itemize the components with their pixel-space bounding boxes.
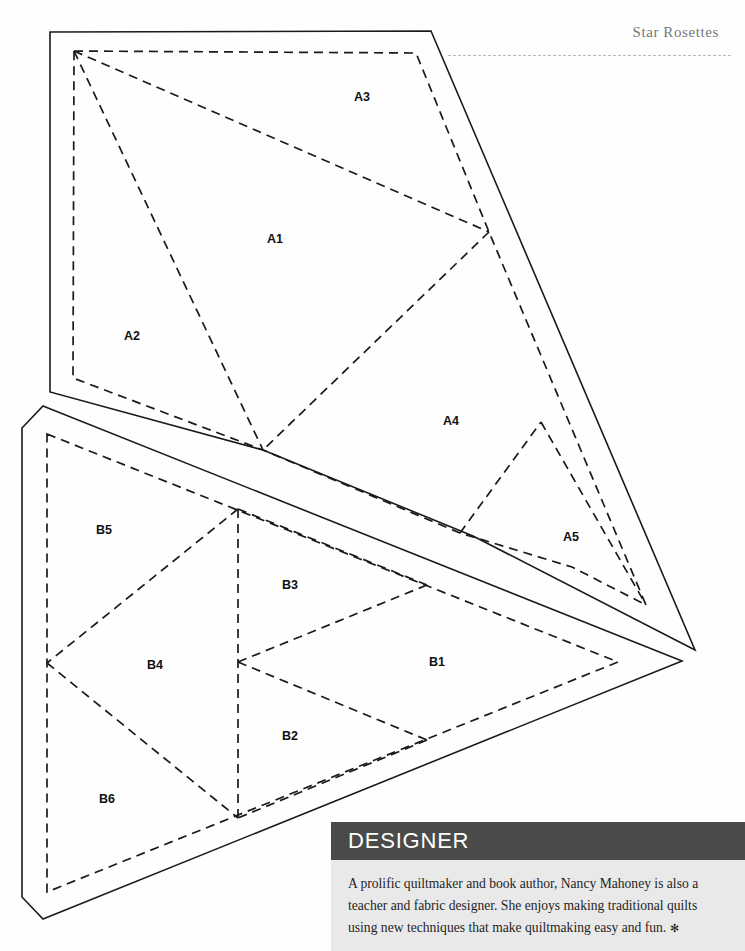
piece-label-a2: A2 — [124, 329, 140, 343]
asterisk-icon: ✻ — [666, 922, 679, 934]
piece-label-a4: A4 — [443, 414, 459, 428]
unit-b-seam-b5-b4 — [47, 509, 238, 663]
piece-label-b5: B5 — [96, 523, 112, 537]
quilt-pattern-diagram: A1 A2 A3 A4 A5 B1 B2 B3 B4 B5 B6 — [0, 0, 745, 951]
piece-label-a3: A3 — [354, 90, 370, 104]
unit-b-seam-b4-b6 — [47, 663, 238, 818]
designer-callout-header: DESIGNER — [331, 822, 745, 860]
unit-a-seam-a1-a3 — [74, 51, 489, 232]
designer-bio-text: A prolific quiltmaker and book author, N… — [348, 876, 698, 935]
piece-label-b3: B3 — [282, 578, 298, 592]
unit-a-cutting-line — [50, 31, 695, 650]
unit-a-stitching-outline — [73, 51, 646, 605]
unit-a-seam-a4-a5 — [460, 422, 541, 533]
unit-b-seam-b1-upper — [238, 585, 427, 662]
piece-label-b1: B1 — [429, 655, 445, 669]
piece-label-a5: A5 — [563, 530, 579, 544]
unit-a-seam-a1-a2 — [74, 51, 263, 450]
designer-callout-body: A prolific quiltmaker and book author, N… — [331, 860, 745, 939]
designer-heading: DESIGNER — [348, 828, 469, 854]
piece-label-b2: B2 — [282, 729, 298, 743]
designer-callout: DESIGNER A prolific quiltmaker and book … — [331, 822, 745, 951]
unit-b-seam-b2-lower — [238, 740, 427, 818]
unit-b-seam-b1-b2 — [238, 662, 427, 740]
unit-b-seam-b3-b1 — [238, 509, 427, 585]
unit-a-seam-a5-edge — [541, 422, 646, 605]
pattern-page: Star Rosettes A1 A2 A3 A4 A5 — [0, 0, 745, 951]
piece-label-a1: A1 — [267, 232, 283, 246]
piece-label-b4: B4 — [147, 658, 163, 672]
piece-label-b6: B6 — [99, 792, 115, 806]
